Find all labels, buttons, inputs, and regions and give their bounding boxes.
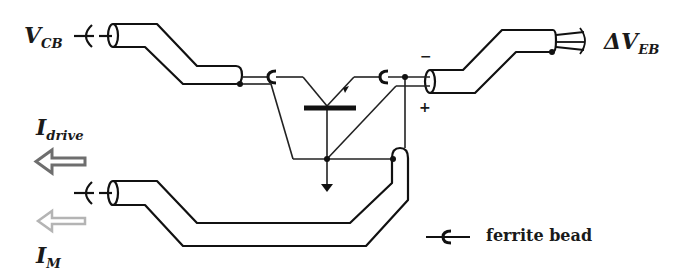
legend-ferrite-bead-label: ferrite bead — [486, 226, 592, 245]
im-arrow-icon — [38, 211, 85, 231]
ground-arrow-icon — [321, 184, 333, 192]
current-coax-cable — [108, 148, 408, 246]
minus-sign: − — [420, 48, 432, 64]
vcb-coax-cable — [108, 24, 242, 84]
vcb-connector-icon — [74, 25, 112, 47]
junction-dots — [237, 49, 555, 162]
legend-ferrite-bead-icon — [426, 231, 470, 243]
plus-sign: + — [419, 99, 431, 115]
im-label: IM — [36, 242, 61, 271]
veb-label: ΔVEB — [604, 28, 659, 57]
veb-coax-cable — [425, 30, 556, 93]
current-connector-icon — [74, 182, 112, 204]
idrive-arrow-icon — [36, 150, 85, 173]
vcb-label: VCB — [24, 22, 63, 51]
circuit-wiring — [242, 77, 430, 184]
idrive-label: Idrive — [36, 114, 84, 143]
veb-connector-icon — [556, 28, 585, 54]
